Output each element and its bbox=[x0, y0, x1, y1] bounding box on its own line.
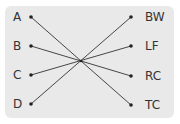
label-bw: BW bbox=[145, 10, 165, 24]
label-c: C bbox=[13, 68, 21, 82]
center-intersection bbox=[80, 60, 83, 63]
label-tc: TC bbox=[145, 98, 160, 112]
dot-d bbox=[29, 102, 33, 106]
label-rc: RC bbox=[145, 69, 161, 83]
dot-b bbox=[29, 44, 33, 48]
dot-rc bbox=[129, 74, 133, 78]
label-a: A bbox=[13, 10, 21, 24]
label-b: B bbox=[13, 39, 21, 53]
dot-a bbox=[29, 15, 33, 19]
dot-bw bbox=[129, 15, 133, 19]
label-lf: LF bbox=[145, 39, 159, 53]
dot-tc bbox=[129, 103, 133, 107]
dot-c bbox=[29, 73, 33, 77]
dot-lf bbox=[129, 44, 133, 48]
label-d: D bbox=[13, 97, 22, 111]
